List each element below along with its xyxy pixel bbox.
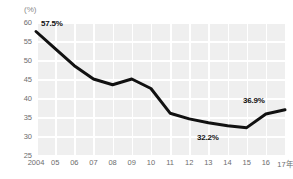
data-label-2015: 32.2% bbox=[197, 133, 219, 142]
line-chart: (%) 6055504540353025 2004050607080910111… bbox=[0, 0, 293, 179]
data-label-2004: 57.5% bbox=[41, 19, 63, 28]
data-label-2017: 36.9% bbox=[243, 96, 265, 105]
